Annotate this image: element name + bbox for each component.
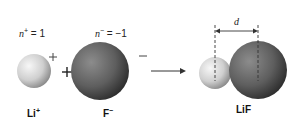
cation-charge-value: = 1 xyxy=(28,28,45,39)
reaction-arrow-icon xyxy=(151,68,186,74)
cation-name-sup: + xyxy=(36,107,40,114)
anion-name-sup: − xyxy=(109,107,113,114)
positive-charge-icon xyxy=(49,53,57,61)
cation-name: Li+ xyxy=(27,107,40,119)
product-name: LiF xyxy=(236,104,251,115)
distance-arrow-left-icon xyxy=(215,29,220,34)
li-ion-sphere xyxy=(17,54,51,88)
anion-charge-label: n− = −1 xyxy=(95,27,127,39)
plus-operator-icon xyxy=(62,67,72,77)
anion-name: F− xyxy=(103,107,113,119)
ionic-bond-diagram xyxy=(0,0,302,124)
cation-charge-label: n+ = 1 xyxy=(19,27,45,39)
f-ion-sphere xyxy=(71,42,129,100)
cation-name-text: Li xyxy=(27,108,36,119)
anion-charge-value: = −1 xyxy=(104,28,127,39)
distance-label: d xyxy=(234,16,239,27)
distance-arrow-right-icon xyxy=(253,29,258,34)
